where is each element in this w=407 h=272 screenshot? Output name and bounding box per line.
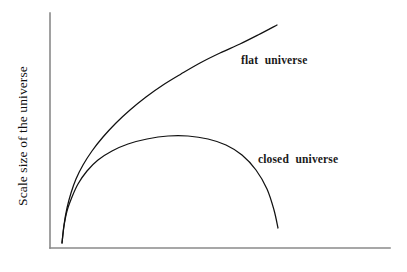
closed-universe-curve: [62, 136, 278, 243]
plot-area: [0, 0, 407, 272]
flat-universe-label: flat universe: [241, 55, 307, 67]
y-axis-label: Scale size of the universe: [9, 0, 37, 272]
figure-container: Scale size of the universe flat universe…: [0, 0, 407, 272]
closed-universe-label: closed universe: [258, 154, 338, 166]
